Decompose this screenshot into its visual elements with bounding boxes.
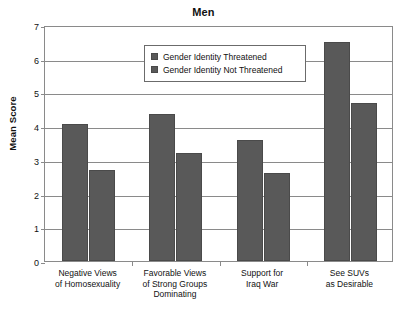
bar (324, 42, 350, 261)
y-axis-label: Mean Score (7, 84, 18, 164)
bar (237, 140, 263, 261)
x-axis-group-label: Favorable Viewsof Strong GroupsDominatin… (131, 268, 218, 300)
bar (176, 153, 202, 261)
legend-item: Gender Identity Not Threatened (151, 63, 299, 76)
legend-item: Gender Identity Threatened (151, 50, 299, 63)
x-axis-tick (307, 261, 308, 266)
bar (149, 114, 175, 261)
x-axis-group-label: Negative Viewsof Homosexuality (44, 268, 131, 289)
y-tick-mark (41, 61, 45, 62)
y-tick-mark (41, 162, 45, 163)
x-axis-tick (132, 261, 133, 266)
bar-chart-figure: Men Mean Score 01234567 Negative Viewsof… (0, 0, 407, 320)
chart-title: Men (0, 6, 407, 18)
y-tick-label: 3 (34, 157, 39, 167)
legend-swatch-icon (151, 53, 158, 60)
y-tick-label: 2 (34, 191, 39, 201)
y-tick-label: 5 (34, 89, 39, 99)
legend-label: Gender Identity Not Threatened (163, 65, 282, 75)
x-axis-group-label: Support forIraq War (219, 268, 306, 289)
bar (264, 173, 290, 261)
legend-swatch-icon (151, 66, 158, 73)
y-tick-mark (41, 196, 45, 197)
y-tick-label: 4 (34, 123, 39, 133)
x-axis-tick (220, 261, 221, 266)
y-tick-mark (41, 263, 45, 264)
y-tick-mark (41, 94, 45, 95)
x-axis-group-label: See SUVsas Desirable (306, 268, 393, 289)
y-tick-label: 6 (34, 56, 39, 66)
chart-legend: Gender Identity Threatened Gender Identi… (144, 45, 306, 82)
y-tick-mark (41, 229, 45, 230)
y-tick-mark (41, 27, 45, 28)
legend-label: Gender Identity Threatened (163, 52, 267, 62)
y-tick-label: 7 (34, 22, 39, 32)
y-tick-mark (41, 128, 45, 129)
bar (351, 103, 377, 261)
y-tick-label: 0 (34, 258, 39, 268)
bar (89, 170, 115, 261)
y-tick-label: 1 (34, 224, 39, 234)
bar (62, 124, 88, 261)
